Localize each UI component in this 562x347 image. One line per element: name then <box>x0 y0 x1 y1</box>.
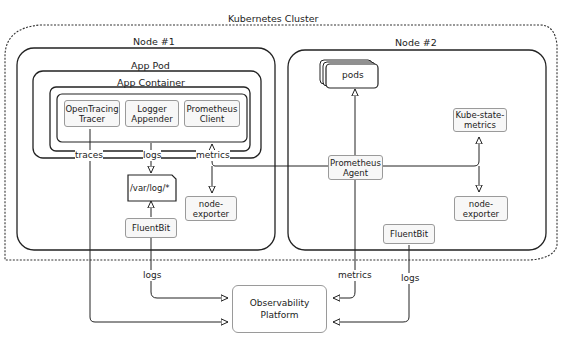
kube-state-metrics: Kube-state-metrics <box>453 108 507 132</box>
node-exporter-node1: node-exporter <box>185 196 237 221</box>
fluentbit-node1: FluentBit <box>125 218 177 238</box>
node-exporter-node2: node-exporter <box>454 196 508 221</box>
logs-label: logs <box>143 150 161 161</box>
app-pod-title: App Pod <box>131 60 170 71</box>
app-container-title: App Container <box>117 77 185 88</box>
prometheus-agent: PrometheusAgent <box>328 155 383 180</box>
pods-label: pods <box>342 70 364 81</box>
var-log-file: /var/log/* <box>130 183 170 194</box>
logs-right-label: logs <box>401 273 419 284</box>
cluster-title: Kubernetes Cluster <box>228 13 319 24</box>
opentracing-tracer: OpenTracingTracer <box>64 100 120 127</box>
metrics-bottom-label: metrics <box>338 270 372 281</box>
node2-title: Node #2 <box>395 37 437 48</box>
fluentbit-node2: FluentBit <box>383 224 435 244</box>
logger-appender: LoggerAppender <box>125 100 179 127</box>
metrics-label: metrics <box>196 150 230 161</box>
traces-label: traces <box>75 150 103 161</box>
logs-left-label: logs <box>143 270 161 281</box>
prometheus-client: PrometheusClient <box>184 100 240 127</box>
node1-title: Node #1 <box>133 36 175 47</box>
observability-platform: ObservabilityPlatform <box>232 285 327 333</box>
